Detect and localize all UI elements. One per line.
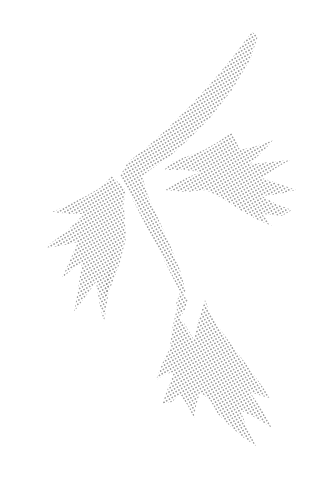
leaf-cluster-left — [44, 176, 126, 322]
leaf-cluster-bottom — [156, 292, 272, 446]
halftone-branch-illustration: Halftone dotted illustration of a leafy … — [0, 0, 319, 480]
leaf-cluster-right — [164, 132, 296, 226]
